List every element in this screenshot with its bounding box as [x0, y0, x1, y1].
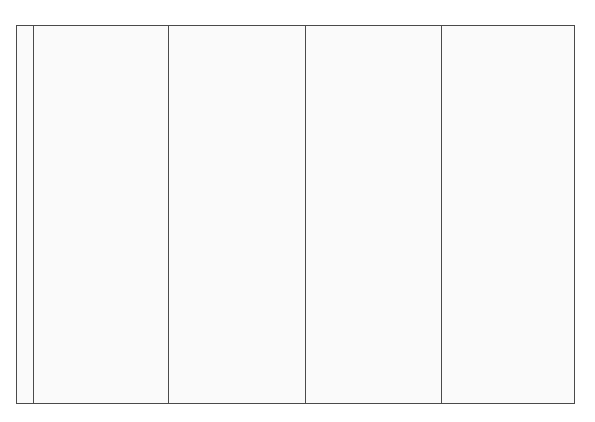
column-divider [168, 26, 169, 403]
column-divider [441, 26, 442, 403]
column-divider [33, 26, 34, 403]
column-divider [305, 26, 306, 403]
blank-table-frame [16, 25, 575, 404]
